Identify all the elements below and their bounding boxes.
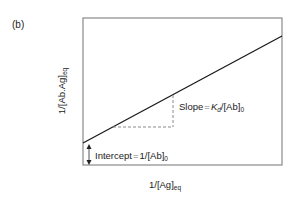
slope-annotation: Slope=Kd/[Ab]0 <box>179 101 244 113</box>
x-axis-label-main: 1/[Ag] <box>149 179 174 190</box>
plot-frame <box>83 18 282 165</box>
intercept-rest-sub: 0 <box>164 155 168 162</box>
slope-equals: = <box>204 101 210 112</box>
slope-prefix: Slope <box>179 101 203 112</box>
slope-rest-sub: 0 <box>240 106 244 113</box>
regression-line <box>83 36 282 143</box>
x-axis-label-sub: eq <box>174 184 181 191</box>
x-axis-label: 1/[Ag]eq <box>149 179 181 191</box>
intercept-annotation: Intercept=1/[Ab]0 <box>95 150 168 162</box>
y-axis-label: 1/[Ab.Ag]eq <box>56 68 68 114</box>
intercept-arrow-icon <box>87 144 92 165</box>
intercept-equals: = <box>133 150 139 161</box>
plot-area <box>0 0 296 199</box>
slope-rest: /[Ab] <box>221 101 241 112</box>
intercept-prefix: Intercept <box>95 150 132 161</box>
y-axis-label-sub: eq <box>61 68 68 75</box>
intercept-rest: 1/[Ab] <box>140 150 165 161</box>
y-axis-label-main: 1/[Ab.Ag] <box>56 75 67 114</box>
